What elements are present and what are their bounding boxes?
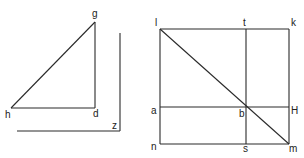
- right-square-figure: ltkabHnsm: [151, 17, 298, 154]
- left-triangle-figure: ghdz: [5, 8, 120, 131]
- geometry-diagram: ghdz ltkabHnsm: [0, 0, 304, 158]
- point-label-h: h: [5, 109, 11, 120]
- point-label-a: a: [151, 105, 157, 116]
- segment-lm-diagonal: [160, 29, 289, 144]
- point-label-H: H: [291, 105, 298, 116]
- point-label-k: k: [291, 17, 297, 28]
- point-label-l: l: [155, 17, 157, 28]
- point-label-d: d: [93, 108, 99, 119]
- point-label-t: t: [243, 17, 246, 28]
- point-label-z: z: [112, 120, 117, 131]
- point-label-g: g: [92, 8, 98, 19]
- segment-gh: [11, 22, 95, 108]
- point-label-n: n: [151, 141, 157, 152]
- point-label-s: s: [243, 143, 248, 154]
- point-label-b: b: [239, 108, 245, 119]
- point-label-m: m: [289, 143, 297, 154]
